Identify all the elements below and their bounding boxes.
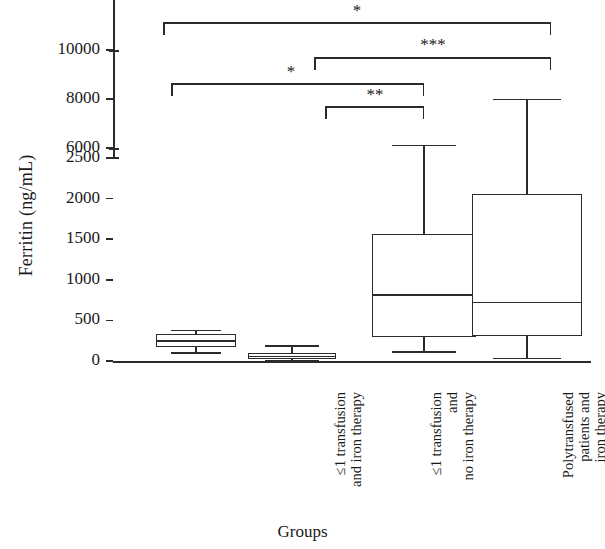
bracket-right-tick xyxy=(423,83,425,96)
whisker-cap-lower-3 xyxy=(493,358,561,360)
y-tick-mark xyxy=(106,49,113,51)
y-tick-label-6000: 6000 xyxy=(0,138,100,155)
significance-label-1: *** xyxy=(411,36,455,53)
bracket-horizontal-line xyxy=(314,57,551,59)
box-2 xyxy=(372,234,476,337)
whisker-upper-1 xyxy=(291,346,293,353)
whisker-cap-lower-1 xyxy=(265,360,320,362)
median-line-2 xyxy=(372,294,476,296)
box-3 xyxy=(472,194,582,336)
bracket-horizontal-line xyxy=(163,22,551,24)
y-axis-spine-upper xyxy=(113,50,115,148)
median-line-3 xyxy=(472,302,582,304)
bracket-left-tick xyxy=(171,83,173,96)
bracket-left-tick xyxy=(325,106,327,119)
y-tick-mark xyxy=(106,279,113,281)
y-tick-mark xyxy=(106,320,113,322)
significance-label-2: * xyxy=(269,63,313,80)
y-tick-label-8000: 8000 xyxy=(0,89,100,106)
significance-bracket-1 xyxy=(314,57,551,73)
x-axis-title: Groups xyxy=(0,522,605,542)
y-tick-label-0: 0 xyxy=(0,351,100,368)
y-tick-label-10000: 10000 xyxy=(0,40,100,57)
significance-bracket-0 xyxy=(163,22,551,38)
y-tick-mark xyxy=(106,198,113,200)
significance-bracket-3 xyxy=(325,106,424,122)
whisker-cap-lower-2 xyxy=(392,351,456,353)
whisker-upper-3 xyxy=(526,99,528,193)
median-line-1 xyxy=(248,356,336,358)
y-tick-label-1500: 1500 xyxy=(0,229,100,246)
whisker-upper-2 xyxy=(423,146,425,234)
bracket-right-tick xyxy=(423,106,425,119)
y-tick-mark xyxy=(106,238,113,240)
bracket-horizontal-line xyxy=(325,106,424,108)
whisker-lower-3 xyxy=(526,336,528,359)
whisker-cap-upper-3 xyxy=(493,99,561,101)
whisker-cap-upper-2 xyxy=(392,145,456,147)
bracket-horizontal-line xyxy=(171,83,424,85)
median-line-0 xyxy=(156,340,236,342)
box-plot-figure: Ferritin (ng/mL)Groups050010001500200025… xyxy=(0,0,605,549)
x-tick-label-0: ≤1 transfusion and iron therapy xyxy=(332,392,364,520)
x-tick-label-1: ≤1 transfusion and no iron therapy xyxy=(428,392,477,520)
bracket-left-tick xyxy=(163,22,165,35)
bracket-right-tick xyxy=(550,22,552,35)
x-axis-spine xyxy=(113,361,591,363)
y-tick-mark xyxy=(106,157,113,159)
x-tick-label-2: Polytransfused patients and iron therapy xyxy=(560,392,605,520)
whisker-lower-2 xyxy=(423,337,425,352)
significance-label-0: * xyxy=(335,2,379,19)
y-tick-mark xyxy=(106,98,113,100)
y-tick-label-500: 500 xyxy=(0,310,100,327)
y-tick-mark xyxy=(106,360,113,362)
y-tick-mark xyxy=(106,147,113,149)
y-tick-label-1000: 1000 xyxy=(0,270,100,287)
bracket-right-tick xyxy=(550,57,552,70)
whisker-cap-upper-0 xyxy=(171,330,221,332)
whisker-cap-lower-0 xyxy=(171,352,221,354)
bracket-left-tick xyxy=(314,57,316,70)
whisker-cap-upper-1 xyxy=(265,345,320,347)
significance-label-3: ** xyxy=(353,86,397,103)
y-tick-label-2000: 2000 xyxy=(0,189,100,206)
